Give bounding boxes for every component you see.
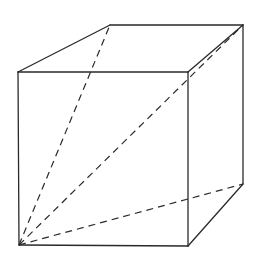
diagonal-front-bottom-left-to-back-top-left xyxy=(19,25,110,245)
diagonal-front-bottom-left-to-back-top-right xyxy=(19,25,243,245)
cube-edge-front-bottom-right-to-front-bottom-left xyxy=(19,245,188,246)
cube-drawing xyxy=(0,0,258,254)
cube-edge-back-bottom-right-to-front-bottom-right xyxy=(188,184,243,246)
cube-diagram xyxy=(0,0,258,254)
cube-edge-back-top-right-to-front-top-right xyxy=(188,25,243,72)
cube-edge-front-bottom-left-to-front-top-left xyxy=(18,72,19,245)
cube-dashed-diagonals xyxy=(19,25,243,245)
cube-edge-front-top-left-to-back-top-left xyxy=(18,25,110,72)
diagonal-front-bottom-left-to-back-bottom-right xyxy=(19,184,243,245)
